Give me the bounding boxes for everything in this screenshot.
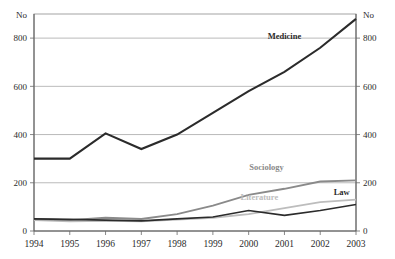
y-tick-label-left-800: 800: [14, 33, 28, 43]
series-line-medicine: [34, 19, 356, 159]
y-tick-label-right-600: 600: [363, 82, 377, 92]
series-label-law: Law: [334, 187, 351, 197]
x-axis-ticks: 1994199519961997199819992000200120022003: [25, 231, 366, 249]
line-chart: 00200200400400600600800800NoNo1994199519…: [0, 0, 395, 259]
axis-unit-labels: NoNo: [16, 10, 374, 20]
chart-canvas: 00200200400400600600800800NoNo1994199519…: [0, 0, 395, 259]
y-tick-label-right-0: 0: [363, 226, 368, 236]
x-tick-label-1999: 1999: [203, 239, 222, 249]
y-axis-unit-right: No: [363, 10, 374, 20]
x-tick-label-1996: 1996: [96, 239, 115, 249]
x-tick-label-2000: 2000: [239, 239, 258, 249]
y-axis-unit-left: No: [16, 10, 27, 20]
y-tick-label-right-200: 200: [363, 178, 377, 188]
y-tick-label-right-800: 800: [363, 33, 377, 43]
x-tick-label-2002: 2002: [311, 239, 330, 249]
x-tick-label-2001: 2001: [275, 239, 294, 249]
x-tick-label-1994: 1994: [25, 239, 44, 249]
y-tick-label-left-400: 400: [14, 130, 28, 140]
y-tick-label-left-200: 200: [14, 178, 28, 188]
y-tick-label-left-0: 0: [23, 226, 28, 236]
x-tick-label-1995: 1995: [60, 239, 79, 249]
y-tick-label-left-600: 600: [14, 82, 28, 92]
y-tick-label-right-400: 400: [363, 130, 377, 140]
series-line-sociology: [34, 180, 356, 220]
gridlines: [34, 38, 356, 183]
series-label-medicine: Medicine: [268, 31, 302, 41]
series-lines: [34, 19, 356, 222]
series-label-literature: Literature: [241, 192, 279, 202]
series-label-sociology: Sociology: [249, 162, 284, 172]
x-tick-label-2003: 2003: [347, 239, 366, 249]
series-labels: MedicineSociologyLiteratureLaw: [241, 31, 351, 202]
x-tick-label-1998: 1998: [168, 239, 187, 249]
x-tick-label-1997: 1997: [132, 239, 151, 249]
